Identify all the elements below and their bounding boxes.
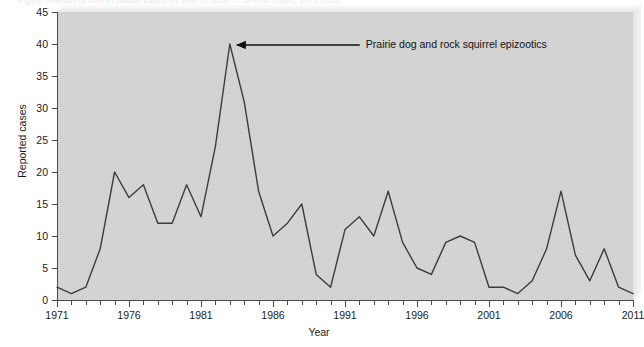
annotation-label: Prairie dog and rock squirrel epizootics bbox=[366, 38, 547, 50]
